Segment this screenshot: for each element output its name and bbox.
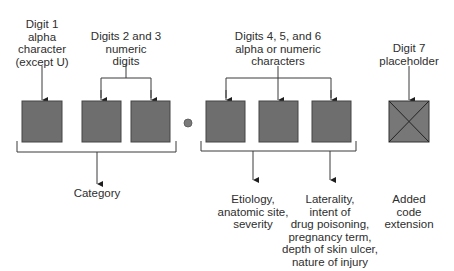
category-bracket [17, 141, 176, 184]
digits456-label: Digits 4, 5, and 6 alpha or numeric char… [223, 30, 333, 68]
decimal-point-dot [184, 119, 192, 127]
digits456-arrows [226, 66, 331, 100]
digit4-box [206, 101, 245, 142]
digit7-label: Digit 7 placeholder [369, 42, 449, 67]
digit5-box [259, 101, 298, 142]
laterality-label: Laterality, intent of drug poisoning, pr… [280, 193, 380, 268]
digit7-placeholder-box [389, 101, 429, 142]
digit2-box [82, 101, 121, 142]
digit3-box [131, 101, 170, 142]
digits23-arrows [101, 64, 151, 100]
digits456-bracket [201, 141, 356, 180]
digits23-label: Digits 2 and 3 numeric digits [76, 30, 176, 68]
digit6-box [312, 101, 351, 142]
category-label: Category [57, 187, 137, 200]
digit1-box [22, 101, 62, 142]
digit1-label: Digit 1 alpha character (except U) [2, 18, 82, 68]
extension-label: Added code extension [374, 193, 444, 231]
